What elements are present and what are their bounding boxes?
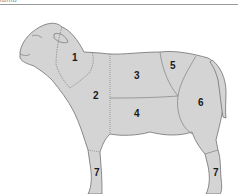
lamb-silhouette [20, 23, 223, 194]
cut-label-2: 2 [93, 90, 99, 101]
cut-label-4: 4 [134, 108, 140, 119]
cut-label-5: 5 [170, 60, 176, 71]
cut-label-3: 3 [134, 70, 140, 81]
lamb-cuts-diagram: 1 2 3 4 5 6 7 7 [0, 0, 238, 194]
cut-label-7-front: 7 [94, 167, 100, 178]
cut-label-7-rear: 7 [213, 167, 219, 178]
cut-label-1: 1 [72, 52, 78, 63]
cut-label-6: 6 [198, 97, 204, 108]
